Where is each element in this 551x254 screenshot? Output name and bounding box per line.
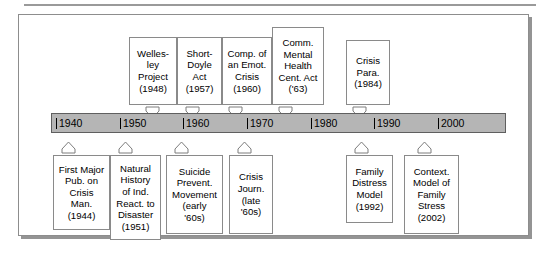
event-box-line: Family bbox=[417, 189, 445, 201]
event-box-line: Crisis bbox=[356, 55, 380, 67]
event-box-line: Short- bbox=[186, 48, 212, 60]
event-box-line: Cent. Act bbox=[279, 72, 318, 84]
event-box-line: ('63) bbox=[289, 83, 308, 95]
decade-tick-label: 1980 bbox=[314, 118, 337, 129]
event-box-line: (2002) bbox=[418, 212, 446, 224]
decade-tick-label: 1990 bbox=[377, 118, 400, 129]
event-box-line: Crisis bbox=[235, 71, 259, 83]
decade-tick-1940: 1940 bbox=[56, 114, 82, 132]
event-box-line: (1992) bbox=[356, 201, 384, 213]
decade-tick-1950: 1950 bbox=[120, 114, 146, 132]
tick-mark-icon bbox=[120, 118, 121, 129]
tick-mark-icon bbox=[374, 118, 375, 129]
event-box-line: Project bbox=[138, 71, 168, 83]
tick-mark-icon bbox=[247, 118, 248, 129]
decade-tick-label: 1940 bbox=[59, 118, 82, 129]
event-box-short-doyle-act: Short-DoyleAct(1957) bbox=[177, 37, 222, 105]
event-box-line: (1957) bbox=[186, 83, 214, 95]
event-box-line: Distress bbox=[352, 177, 387, 189]
event-box-community-mental-health-centers-act: Comm.MentalHealthCent. Act('63) bbox=[272, 27, 324, 105]
figure-frame: Welles-leyProject(1948)Short-DoyleAct(19… bbox=[18, 14, 529, 236]
event-box-line: an Emot. bbox=[228, 59, 266, 71]
event-box-natural-history-of-individual-reactions-to-disaster: NaturalHistoryof Ind.React. toDisaster(1… bbox=[110, 155, 161, 240]
event-box-line: Movement bbox=[172, 189, 217, 201]
event-box-line: Crisis bbox=[70, 187, 94, 199]
event-box-line: Model of bbox=[413, 177, 450, 189]
decade-tick-label: 1950 bbox=[123, 118, 146, 129]
event-box-line: Model bbox=[356, 189, 382, 201]
event-box-line: Natural bbox=[120, 163, 151, 175]
event-box-line: Prevent. bbox=[177, 177, 213, 189]
event-box-line: Pub. on bbox=[65, 175, 98, 187]
timeline-diagram: Welles-leyProject(1948)Short-DoyleAct(19… bbox=[19, 15, 530, 237]
event-box-crisis-paradigm: CrisisPara.(1984) bbox=[346, 40, 390, 105]
event-box-line: Comp. of bbox=[228, 48, 267, 60]
event-box-line: '60s) bbox=[184, 212, 205, 224]
event-box-line: Para. bbox=[357, 67, 380, 79]
event-box-line: React. to bbox=[116, 198, 154, 210]
event-box-line: Comm. bbox=[283, 37, 314, 49]
decade-tick-2000: 2000 bbox=[438, 114, 464, 132]
event-box-line: First Major bbox=[59, 164, 104, 176]
decade-tick-1990: 1990 bbox=[374, 114, 400, 132]
event-box-suicide-prevention-movement: SuicidePrevent.Movement(early'60s) bbox=[166, 155, 223, 234]
event-box-line: Stress bbox=[418, 200, 445, 212]
tick-mark-icon bbox=[183, 118, 184, 129]
decade-tick-1960: 1960 bbox=[183, 114, 209, 132]
decade-tick-label: 1960 bbox=[186, 118, 209, 129]
event-box-line: Family bbox=[355, 166, 383, 178]
event-box-line: (1944) bbox=[68, 210, 96, 222]
event-box-line: (1984) bbox=[354, 78, 382, 90]
event-box-line: (1948) bbox=[139, 83, 167, 95]
connector-arrow-up-icon bbox=[354, 141, 369, 154]
event-box-first-major-publication-on-crisis-management: First MajorPub. onCrisisMan.(1944) bbox=[53, 155, 110, 230]
event-box-line: (1960) bbox=[233, 83, 261, 95]
event-box-line: Act bbox=[193, 71, 207, 83]
tick-mark-icon bbox=[311, 118, 312, 129]
event-box-line: of Ind. bbox=[122, 186, 149, 198]
event-box-wellesley-project: Welles-leyProject(1948) bbox=[129, 37, 177, 105]
event-box-line: ley bbox=[147, 59, 159, 71]
tick-mark-icon bbox=[56, 118, 57, 129]
event-box-line: (1951) bbox=[122, 221, 150, 233]
decade-tick-label: 2000 bbox=[441, 118, 464, 129]
decade-tick-label: 1970 bbox=[250, 118, 273, 129]
event-box-line: '60s) bbox=[241, 206, 262, 218]
event-box-line: Suicide bbox=[179, 166, 210, 178]
event-box-contextual-model-of-family-stress: Context.Model ofFamilyStress(2002) bbox=[404, 155, 459, 234]
event-box-line: Context. bbox=[414, 166, 450, 178]
connector-arrow-up-icon bbox=[118, 141, 133, 154]
connector-arrow-up-icon bbox=[417, 141, 432, 154]
event-box-line: Health bbox=[284, 60, 312, 72]
event-box-line: Man. bbox=[71, 198, 92, 210]
event-box-line: Disaster bbox=[118, 209, 153, 221]
event-box-line: Journ. bbox=[238, 183, 265, 195]
connector-arrow-up-icon bbox=[174, 141, 189, 154]
decade-tick-1970: 1970 bbox=[247, 114, 273, 132]
connector-arrow-up-icon bbox=[237, 141, 252, 154]
event-box-line: (late bbox=[242, 195, 261, 207]
event-box-line: Crisis bbox=[239, 171, 263, 183]
timeline-decade-bar: 1940195019601970198019902000 bbox=[51, 113, 506, 133]
event-box-line: (early bbox=[183, 200, 207, 212]
event-box-line: Doyle bbox=[187, 59, 212, 71]
event-box-line: History bbox=[121, 174, 151, 186]
connector-arrow-up-icon bbox=[61, 141, 76, 154]
top-horizontal-rule bbox=[24, 4, 536, 6]
tick-mark-icon bbox=[438, 118, 439, 129]
event-box-crisis-journal: CrisisJourn.(late'60s) bbox=[229, 155, 273, 234]
decade-tick-1980: 1980 bbox=[311, 114, 337, 132]
event-box-components-of-an-emotional-crisis: Comp. ofan Emot.Crisis(1960) bbox=[222, 37, 272, 105]
event-box-family-distress-model: FamilyDistressModel(1992) bbox=[346, 155, 393, 223]
event-box-line: Mental bbox=[284, 49, 313, 61]
event-box-line: Welles- bbox=[137, 48, 169, 60]
